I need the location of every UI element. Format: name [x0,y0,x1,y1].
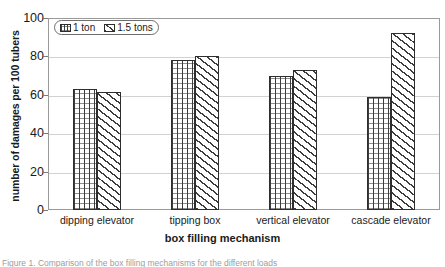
bar [269,76,293,210]
figure-caption: Figure 1. Comparison of the box filling … [0,258,445,267]
legend-item-1-5-tons: 1.5 tons [104,23,153,33]
chart-legend: 1 ton 1.5 tons [54,20,159,35]
x-axis-tick-label: dipping elevator [60,214,134,226]
x-axis-tick-label: cascade elevator [351,214,430,226]
x-axis-title: box filling mechanism [0,232,445,244]
y-axis-tick-label: 40 [4,126,44,140]
bar-group [146,18,244,210]
vertical-grid-hatch-swatch-icon [60,24,71,32]
bar [391,33,415,210]
y-axis-tick-label: 20 [4,165,44,179]
legend-item-1-ton: 1 ton [60,23,95,33]
y-axis-tick-label: 0 [4,203,44,217]
bar-group [244,18,342,210]
bar [293,70,317,210]
y-axis-tick-label: 100 [4,11,44,25]
x-axis-tick-label: vertical elevator [256,214,330,226]
bar-series-container [48,18,440,210]
y-axis-title: number of damages per 100 tubers [9,16,21,216]
y-axis-tick-label: 60 [4,88,44,102]
bar [73,89,97,210]
legend-label: 1.5 tons [117,23,153,33]
bar-group [48,18,146,210]
y-axis-tick-label: 80 [4,49,44,63]
bar [195,56,219,210]
x-axis-tick-label: tipping box [170,214,221,226]
bar-group [342,18,440,210]
bar [97,92,121,210]
bar-chart-figure: number of damages per 100 tubers 0204060… [0,0,445,267]
bar [171,60,195,210]
y-axis-tick-mark [43,210,48,211]
legend-label: 1 ton [73,23,95,33]
bar [367,97,391,210]
diagonal-hatch-swatch-icon [104,24,115,32]
